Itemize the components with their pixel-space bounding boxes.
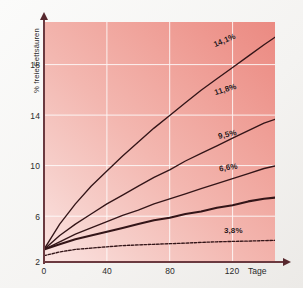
y-axis-line	[43, 16, 45, 264]
curve-14-1	[44, 37, 275, 249]
y-tick-label-14: 14	[18, 111, 40, 121]
x-axis-line	[43, 261, 287, 263]
x-tick-label-80: 80	[157, 266, 183, 276]
y-tick-label-18: 18	[18, 60, 40, 70]
x-tick-label-40: 40	[94, 266, 120, 276]
curve-9-5	[44, 166, 275, 249]
x-axis-title: Tage	[248, 266, 267, 276]
curve-label-3-8: 3,8%	[224, 226, 243, 235]
chart-figure: % freie Fettsäuren 2 6 10 14 18 0 40 80 …	[0, 0, 303, 288]
curve-3-8	[44, 240, 275, 255]
y-tick-label-10: 10	[18, 161, 40, 171]
y-axis-arrow-icon	[40, 12, 48, 20]
y-tick-label-6: 6	[18, 212, 40, 222]
x-axis-arrow-icon	[283, 258, 291, 266]
x-tick-label-120: 120	[219, 266, 245, 276]
x-tick-label-0: 0	[31, 266, 57, 276]
